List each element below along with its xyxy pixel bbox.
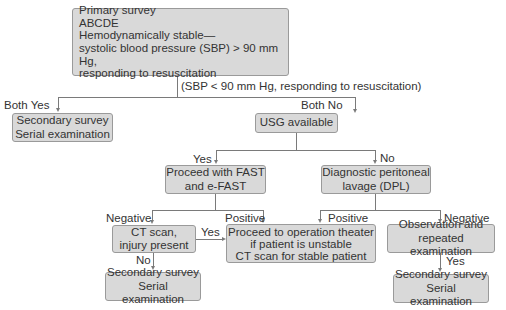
- node-text: Proceed with FAST: [166, 166, 264, 180]
- node-dpl: Diagnostic peritoneal lavage (DPL): [321, 165, 431, 194]
- node-secondary-survey-bottom-right: Secondary survey Serial examination: [393, 274, 489, 303]
- node-observation: Observation and repeated examination: [387, 224, 495, 253]
- edge-label-fast-positive: Positive: [225, 212, 265, 225]
- node-text: Proceed to operation theater: [228, 226, 374, 238]
- node-text: Diagnostic peritoneal: [322, 166, 429, 180]
- connector: [153, 252, 154, 267]
- node-text: Serial examination: [394, 282, 488, 309]
- connector: [296, 132, 297, 150]
- connector: [215, 193, 216, 210]
- node-text: lavage (DPL): [342, 180, 409, 194]
- edge-label-usg-no: No: [380, 152, 395, 165]
- arrow-down-icon: [56, 108, 60, 112]
- edge-label-ct-yes: Yes: [201, 226, 220, 239]
- edge-label-ct-no: No: [136, 254, 151, 267]
- node-text: ABCDE: [79, 17, 119, 30]
- node-text: injury present: [119, 239, 188, 253]
- edge-label-both-no: Both No: [301, 99, 343, 112]
- node-text: systolic blood pressure (SBP) > 90 mm Hg…: [79, 42, 288, 67]
- edge-label-dpl-positive: Positive: [328, 212, 368, 225]
- node-text: Serial examination: [106, 280, 200, 307]
- node-text: Secondary survey: [16, 114, 108, 128]
- node-text: responding to resuscitation: [79, 67, 216, 80]
- node-secondary-survey-left: Secondary survey Serial examination: [12, 113, 113, 142]
- node-text: repeated examination: [388, 232, 494, 259]
- node-text: Serial examination: [15, 128, 110, 142]
- edge-label-dpl-negative: Negative: [444, 212, 489, 225]
- edge-label-sbp-note: (SBP < 90 mm Hg, responding to resuscita…: [181, 80, 421, 93]
- node-primary-survey: Primary survey ABCDE Hemodynamically sta…: [72, 8, 289, 76]
- connector: [216, 150, 376, 151]
- node-text: and e-FAST: [185, 180, 246, 194]
- connector: [58, 97, 356, 98]
- arrow-down-icon: [318, 219, 322, 223]
- connector: [355, 97, 356, 109]
- node-text: if patient is unstable: [250, 238, 352, 250]
- node-proceed-operation: Proceed to operation theater if patient …: [226, 224, 376, 263]
- edge-label-both-yes: Both Yes: [4, 99, 49, 112]
- node-secondary-survey-bottom-left: Secondary survey Serial examination: [105, 272, 201, 301]
- edge-label-obs-yes: Yes: [446, 255, 465, 268]
- node-text: Hemodynamically stable—: [79, 29, 215, 42]
- edge-label-fast-negative: Negative: [106, 212, 151, 225]
- arrow-down-icon: [373, 160, 377, 164]
- connector: [375, 193, 376, 210]
- node-text: USG available: [260, 116, 334, 130]
- node-text: Secondary survey: [107, 266, 199, 280]
- node-fast: Proceed with FAST and e-FAST: [165, 165, 266, 194]
- node-usg-available: USG available: [255, 113, 338, 133]
- edge-label-usg-yes: Yes: [193, 153, 212, 166]
- node-text: CT scan for stable patient: [236, 250, 367, 262]
- connector: [152, 210, 264, 211]
- node-ct-scan: CT scan, injury present: [112, 225, 196, 253]
- connector: [320, 210, 441, 211]
- arrow-down-icon: [353, 109, 357, 113]
- node-text: CT scan,: [131, 226, 177, 240]
- connector: [195, 239, 222, 240]
- node-text: Primary survey: [79, 4, 156, 17]
- node-text: Secondary survey: [395, 268, 487, 282]
- arrow-down-icon: [214, 160, 218, 164]
